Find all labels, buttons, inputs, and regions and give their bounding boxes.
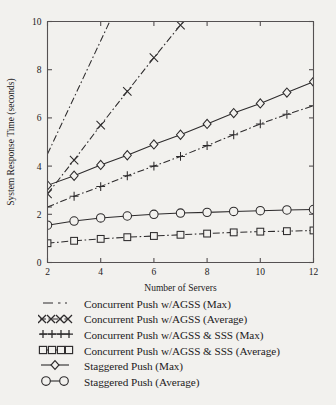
dashdot-line-key: [38, 296, 84, 312]
marker-plus: [256, 120, 265, 129]
diamond-marker-key: [38, 358, 84, 374]
marker-plus: [229, 130, 238, 139]
circle-marker-key: [38, 374, 84, 390]
marker-diamond: [70, 171, 78, 180]
x-tick-label: 10: [256, 267, 266, 277]
marker-diamond: [256, 99, 264, 108]
marker-circle: [203, 208, 211, 216]
marker-diamond: [97, 160, 105, 169]
marker-plus: [123, 171, 132, 180]
marker-square: [71, 237, 78, 244]
plus-marker-key: [38, 327, 84, 343]
marker-circle: [150, 210, 158, 218]
series-3: [44, 227, 317, 247]
y-tick-label: 0: [37, 258, 42, 268]
series-4: [44, 77, 318, 190]
legend-item-label: Staggered Push (Max): [84, 360, 183, 372]
x-axis-title: Number of Servers: [144, 283, 217, 293]
marker-square: [230, 229, 237, 236]
marker-diamond: [230, 108, 238, 117]
marker-circle: [283, 206, 291, 214]
marker-plus: [203, 141, 212, 150]
legend-item: Concurrent Push w/AGSS & SSS (Average): [38, 343, 334, 359]
legend-item: Concurrent Push w/AGSS (Max): [38, 296, 334, 312]
marker-x: [70, 156, 78, 164]
series-1: [43, 0, 313, 198]
marker-plus: [150, 162, 159, 171]
axis-labels: 246810120246810Number of ServersSystem R…: [6, 17, 319, 293]
marker-x: [123, 87, 131, 95]
marker-square: [257, 228, 264, 235]
marker-circle: [97, 214, 105, 222]
x-tick-label: 6: [152, 267, 157, 277]
marker-square: [151, 233, 158, 240]
x-tick-label: 4: [98, 267, 103, 277]
series-line: [48, 0, 314, 194]
marker-square: [204, 230, 211, 237]
marker-circle: [123, 212, 131, 220]
marker-plus: [176, 152, 185, 161]
marker-diamond: [150, 140, 158, 149]
marker-diamond: [283, 88, 291, 97]
marker-square: [124, 234, 131, 241]
y-tick-label: 8: [37, 65, 42, 75]
legend-item-label: Staggered Push (Average): [84, 376, 199, 388]
legend-item: Concurrent Push w/AGSS (Average): [38, 312, 334, 328]
y-tick-label: 6: [37, 113, 42, 123]
marker-x: [97, 121, 105, 129]
x-tick-label: 2: [45, 267, 50, 277]
y-tick-label: 4: [37, 162, 42, 172]
y-tick-label: 2: [37, 210, 42, 220]
marker-circle: [70, 217, 78, 225]
legend-item-label: Concurrent Push w/AGSS (Average): [84, 313, 247, 325]
marker-circle: [256, 206, 264, 214]
x-tick-label: 12: [309, 267, 319, 277]
chart-legend: Concurrent Push w/AGSS (Max)Concurrent P…: [38, 296, 334, 390]
marker-diamond: [203, 119, 211, 128]
legend-item-label: Concurrent Push w/AGSS & SSS (Average): [84, 345, 280, 357]
marker-circle: [176, 209, 184, 217]
legend-item-label: Concurrent Push w/AGSS (Max): [84, 298, 231, 310]
legend-item: Staggered Push (Average): [38, 374, 334, 390]
legend-item-label: Concurrent Push w/AGSS & SSS (Max): [84, 329, 264, 341]
legend-item: Staggered Push (Max): [38, 358, 334, 374]
marker-plus: [283, 110, 292, 119]
marker-x: [150, 53, 158, 61]
legend-item: Concurrent Push w/AGSS & SSS (Max): [38, 327, 334, 343]
plot-area: [43, 0, 318, 247]
y-axis-title: System Response Time (seconds): [6, 78, 17, 205]
marker-x: [176, 21, 184, 29]
marker-plus: [70, 192, 79, 201]
marker-diamond: [123, 151, 131, 160]
marker-circle: [230, 207, 238, 215]
marker-square: [97, 235, 104, 242]
marker-square: [284, 228, 291, 235]
x-tick-label: 8: [205, 267, 210, 277]
square-marker-key: [38, 343, 84, 359]
chart-figure: 246810120246810Number of ServersSystem R…: [0, 0, 336, 405]
x-marker-key: [38, 312, 84, 328]
marker-square: [177, 231, 184, 238]
series-2: [43, 101, 318, 211]
marker-plus: [96, 182, 105, 191]
series-5: [43, 205, 317, 229]
marker-diamond: [177, 130, 185, 139]
y-tick-label: 10: [32, 17, 42, 27]
